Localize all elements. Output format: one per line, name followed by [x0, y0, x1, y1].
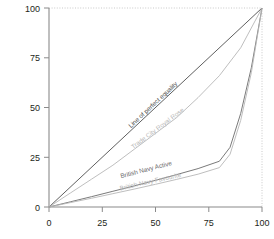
y-tick-label-0: 0 [35, 203, 40, 213]
y-axis-ticks [44, 8, 49, 207]
series-annotation-layer: Line of perfect equalityTrade City Royal… [119, 79, 186, 192]
plot-area: 100 75 50 25 0 0 25 50 75 100 Line of pe… [0, 0, 274, 239]
x-tick-label-25: 25 [97, 218, 107, 228]
lorenz-curve-chart: Cumulative share of income (%) 100 75 [0, 0, 274, 239]
x-tick-label-100: 100 [254, 218, 269, 228]
x-tick-label-50: 50 [150, 218, 160, 228]
x-tick-label-0: 0 [46, 218, 51, 228]
x-axis-ticks [49, 207, 262, 212]
y-tick-label-100: 100 [25, 4, 40, 14]
series-annotation-0: Line of perfect equality [127, 79, 180, 129]
y-tick-label-75: 75 [30, 53, 40, 63]
y-tick-label-25: 25 [30, 153, 40, 163]
y-tick-label-50: 50 [30, 103, 40, 113]
x-tick-label-75: 75 [204, 218, 214, 228]
